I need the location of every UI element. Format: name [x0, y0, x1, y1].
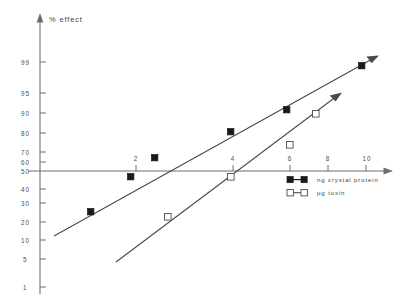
legend-entry-ug-toxin: µg toxin — [287, 189, 345, 196]
y-tick-label: 40 — [21, 186, 30, 193]
y-tick-label: 60 — [21, 159, 30, 166]
data-point-filled-square — [284, 107, 290, 113]
y-axis-tick-labels: 99 95 90 80 70 60 50 40 30 20 10 5 1 — [21, 59, 30, 291]
data-point-open-square — [287, 142, 294, 149]
y-tick-label: 80 — [21, 130, 30, 137]
x-tick-label: 4 — [231, 155, 235, 162]
x-axis-ticks — [136, 165, 366, 171]
regression-line-crystal-protein-arrowhead — [367, 56, 380, 64]
x-tick-label: 10 — [363, 155, 372, 162]
data-point-open-square — [313, 111, 320, 118]
regression-line-crystal-protein — [54, 58, 374, 236]
chart-legend: ng crystal protein µg toxin — [287, 176, 379, 196]
series-ug-toxin — [116, 93, 342, 263]
y-tick-label: 90 — [21, 110, 30, 117]
data-point-filled-square — [228, 129, 234, 135]
y-tick-label: 20 — [21, 219, 30, 226]
y-tick-label: 5 — [23, 256, 27, 263]
data-point-open-square — [228, 174, 235, 181]
data-point-filled-square — [88, 209, 94, 215]
x-tick-label: 8 — [326, 155, 330, 162]
legend-open-square-icon — [301, 190, 307, 196]
data-point-filled-square — [152, 155, 158, 161]
x-axis-arrowhead — [384, 168, 394, 175]
y-tick-label: 95 — [21, 90, 30, 97]
y-tick-label: 10 — [21, 237, 30, 244]
y-axis-ticks — [40, 62, 46, 287]
legend-label-ng-crystal-protein: ng crystal protein — [317, 176, 379, 183]
legend-filled-square-icon — [287, 177, 293, 183]
y-axis-title: % effect — [49, 15, 83, 24]
x-tick-label: 2 — [134, 155, 138, 162]
y-tick-label: 1 — [23, 284, 27, 291]
data-point-filled-square — [359, 63, 365, 69]
data-point-open-square — [165, 214, 172, 221]
legend-label-ug-toxin: µg toxin — [317, 189, 345, 196]
y-tick-label: 70 — [21, 149, 30, 156]
legend-filled-square-icon — [301, 177, 307, 183]
y-tick-label: 99 — [21, 59, 30, 66]
data-point-filled-square — [128, 174, 134, 180]
dose-response-probit-chart: % effect 99 95 90 80 70 60 50 40 30 — [0, 0, 415, 306]
legend-entry-ng-crystal-protein: ng crystal protein — [287, 176, 379, 183]
x-tick-label: 6 — [288, 155, 292, 162]
series-ng-crystal-protein — [54, 56, 379, 237]
y-tick-label: 30 — [21, 200, 30, 207]
y-axis-arrowhead — [37, 13, 44, 23]
y-axis — [37, 13, 44, 294]
x-axis-tick-labels: 2 4 6 8 10 — [134, 155, 372, 162]
chart-canvas: % effect 99 95 90 80 70 60 50 40 30 — [0, 0, 415, 306]
legend-open-square-icon — [287, 190, 293, 196]
x-axis — [28, 168, 393, 175]
